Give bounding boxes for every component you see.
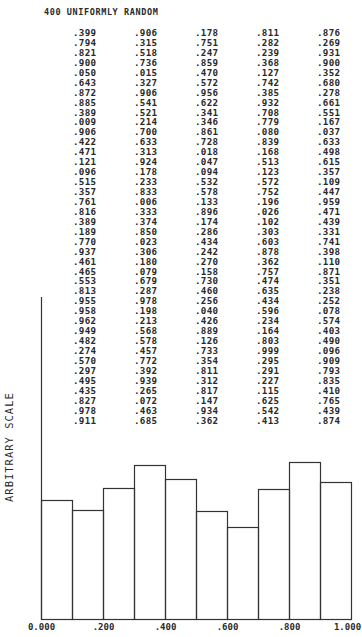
x-tick-label: .800 [279,622,301,632]
x-tick-label: 1.000 [334,622,361,632]
x-tick-label: .200 [93,622,115,632]
histogram-bar [42,501,73,620]
histogram-bar [290,463,321,620]
histogram-bar [228,528,259,620]
histogram-bar [197,512,228,620]
x-tick-label: .400 [155,622,177,632]
histogram-bar [321,483,352,620]
histogram [0,0,362,637]
histogram-bar [259,490,290,620]
histogram-bar [73,511,104,620]
x-tick-label: .600 [217,622,239,632]
histogram-bar [166,480,197,620]
histogram-bar [104,489,135,620]
x-tick-label: 0.000 [28,622,55,632]
histogram-bar [135,466,166,620]
histogram-bars [42,463,352,620]
